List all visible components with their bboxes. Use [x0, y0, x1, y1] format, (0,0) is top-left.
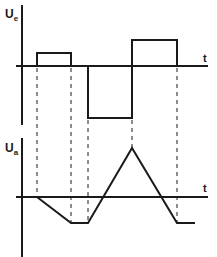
ue-y-label: Ue: [5, 7, 19, 23]
ua-t-label: t: [203, 182, 207, 194]
ue-t-label: t: [203, 52, 207, 64]
output-voltage-plot: Ua t: [5, 138, 208, 257]
ue-signal: [37, 40, 177, 118]
integrator-waveform-diagram: Ue t Ua t: [0, 0, 217, 257]
alignment-guides: [37, 68, 177, 223]
ua-y-label: Ua: [5, 141, 19, 157]
input-voltage-plot: Ue t: [5, 5, 208, 125]
ua-signal: [37, 148, 195, 223]
